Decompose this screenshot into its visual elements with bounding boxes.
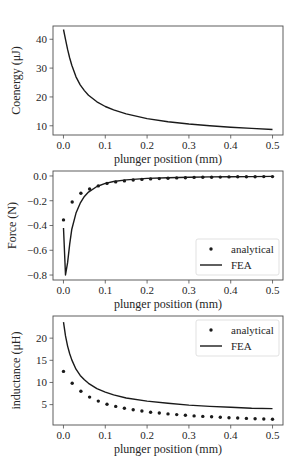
x-tick-label: 0.2: [140, 139, 154, 151]
x-tick-label: 0.4: [224, 139, 238, 151]
legend-label-analytical: analytical: [231, 324, 274, 336]
x-tick-label: 0.1: [98, 429, 112, 441]
inductance-analytical-point: [88, 395, 91, 398]
inductance-analytical-point: [149, 411, 152, 414]
y-axis-label: Force (N): [5, 202, 19, 249]
x-tick-label: 0.5: [266, 139, 280, 151]
inductance-analytical-point: [175, 413, 178, 416]
inductance-analytical-point: [262, 417, 265, 420]
legend: analyticalFEA: [196, 320, 279, 356]
legend: analyticalFEA: [196, 239, 279, 275]
y-tick-label: 40: [36, 33, 48, 45]
inductance-analytical-point: [79, 390, 82, 393]
y-axis-label: inductance (μH): [9, 331, 23, 409]
y-tick-label: 10: [36, 376, 48, 388]
inductance-analytical-point: [158, 411, 161, 414]
y-tick-label: 0.0: [33, 170, 47, 182]
y-tick-label: 15: [36, 354, 48, 366]
x-tick-label: 0.0: [57, 139, 71, 151]
inductance-analytical-point: [166, 412, 169, 415]
force-analytical-point: [62, 218, 65, 221]
y-tick-label: 20: [36, 332, 48, 344]
x-tick-label: 0.5: [266, 429, 280, 441]
legend-label-fea: FEA: [231, 259, 252, 271]
inductance-analytical-point: [219, 416, 222, 419]
inductance-panel: 0.00.10.20.30.40.55101520plunger positio…: [9, 316, 283, 456]
legend-label-fea: FEA: [231, 340, 252, 352]
y-axis-label: Coenergy (μJ): [9, 46, 23, 115]
inductance-analytical-point: [184, 414, 187, 417]
inductance-analytical-point: [253, 417, 256, 420]
figure: 0.00.10.20.30.40.510203040plunger positi…: [0, 0, 300, 475]
y-tick-label: 30: [36, 62, 48, 74]
x-tick-label: 0.2: [140, 429, 154, 441]
x-tick-label: 0.3: [182, 284, 196, 296]
legend-label-analytical: analytical: [231, 243, 274, 255]
y-tick-label: 10: [36, 120, 48, 132]
x-tick-label: 0.0: [57, 284, 71, 296]
x-tick-label: 0.0: [57, 429, 71, 441]
y-tick-label: −0.6: [27, 244, 47, 256]
inductance-analytical-point: [192, 414, 195, 417]
inductance-analytical-point: [114, 405, 117, 408]
x-tick-label: 0.1: [98, 139, 112, 151]
force-panel: 0.00.10.20.30.40.50.0−0.2−0.4−0.6−0.8plu…: [5, 170, 283, 311]
x-axis-label: plunger position (mm): [114, 297, 222, 311]
force-analytical-point: [79, 192, 82, 195]
inductance-analytical-point: [271, 418, 274, 421]
inductance-analytical-point: [236, 416, 239, 419]
inductance-analytical-point: [105, 403, 108, 406]
y-tick-label: −0.8: [27, 269, 47, 281]
x-axis-label: plunger position (mm): [114, 442, 222, 456]
y-tick-label: −0.2: [27, 195, 47, 207]
inductance-analytical-point: [201, 415, 204, 418]
x-tick-label: 0.5: [266, 284, 280, 296]
legend-dot-icon: [209, 328, 212, 331]
x-tick-label: 0.1: [98, 284, 112, 296]
inductance-analytical-point: [227, 416, 230, 419]
inductance-analytical-point: [132, 408, 135, 411]
axes-frame: [53, 26, 283, 135]
x-tick-label: 0.4: [224, 284, 238, 296]
inductance-analytical-point: [140, 409, 143, 412]
x-tick-label: 0.2: [140, 284, 154, 296]
inductance-analytical-point: [62, 370, 65, 373]
y-tick-label: 20: [36, 91, 48, 103]
force-analytical-point: [71, 200, 74, 203]
coenergy-panel: 0.00.10.20.30.40.510203040plunger positi…: [9, 26, 283, 166]
inductance-analytical-point: [123, 407, 126, 410]
y-tick-label: −0.4: [27, 219, 47, 231]
x-tick-label: 0.3: [182, 429, 196, 441]
inductance-analytical-point: [245, 417, 248, 420]
inductance-analytical-point: [210, 415, 213, 418]
x-axis-label: plunger position (mm): [114, 152, 222, 166]
coenergy-fea-line: [64, 30, 273, 130]
inductance-analytical-point: [97, 399, 100, 402]
inductance-analytical-point: [71, 382, 74, 385]
legend-dot-icon: [209, 247, 212, 250]
y-tick-label: 5: [42, 398, 48, 410]
x-tick-label: 0.4: [224, 429, 238, 441]
x-tick-label: 0.3: [182, 139, 196, 151]
